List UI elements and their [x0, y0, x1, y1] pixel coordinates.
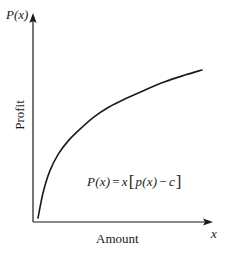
- profit-function-figure: [0, 0, 226, 253]
- profit-curve: [38, 70, 202, 218]
- formula-bracket-close: ]: [175, 172, 183, 191]
- y-axis-title: Profit: [12, 87, 28, 143]
- formula-annotation: P(x)=x[p(x)−c]: [87, 172, 183, 192]
- formula-lhs-argument: (x): [95, 174, 110, 189]
- y-axis-symbol-label: P(x): [6, 7, 28, 23]
- formula-cost-symbol: c: [169, 174, 175, 189]
- formula-minus-sign: −: [157, 174, 169, 189]
- formula-bracket-open: [: [128, 172, 136, 191]
- formula-factor-x: x: [122, 174, 128, 189]
- x-axis-symbol-label: x: [211, 226, 217, 242]
- formula-lhs-symbol: P: [87, 174, 95, 189]
- formula-equals-sign: =: [110, 174, 122, 189]
- x-axis-title: Amount: [96, 231, 139, 247]
- formula-inner-argument: (x): [142, 174, 157, 189]
